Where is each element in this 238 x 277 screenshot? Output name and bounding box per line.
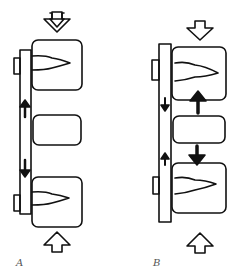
compression-arrow-up-icon: [187, 233, 213, 253]
screw-head: [14, 195, 20, 211]
arrow-up-icon: [190, 91, 206, 101]
plate-arrows-b: [161, 98, 169, 165]
compression-arrow-down-icon: [187, 21, 213, 40]
arrow-down-icon: [161, 105, 169, 111]
fracture-line-icon: [175, 62, 218, 81]
plate-arrows-a: [20, 100, 30, 177]
plate: [20, 50, 31, 214]
compression-arrow-up-icon: [44, 232, 70, 252]
screw-head: [14, 58, 20, 74]
fracture-line-icon: [32, 192, 69, 205]
fracture-line-icon: [32, 56, 70, 70]
upper-bone-block: [32, 40, 82, 90]
arrow-up-icon: [161, 153, 169, 159]
screw-head: [153, 177, 159, 194]
screw-head: [152, 60, 159, 80]
lower-bone-block: [172, 163, 226, 213]
panel-b: [152, 21, 226, 253]
plate: [159, 44, 171, 222]
panel-label-a: A: [16, 257, 23, 268]
panel-label-b: B: [153, 257, 160, 268]
middle-block: [33, 115, 81, 145]
middle-block: [173, 116, 225, 143]
diagram-canvas: [0, 0, 238, 277]
arrow-down-icon: [20, 170, 30, 177]
compression-arrows-b: [189, 91, 206, 165]
arrow-up-icon: [20, 100, 30, 107]
fracture-line-icon: [175, 177, 216, 194]
panel-a: [14, 12, 82, 252]
